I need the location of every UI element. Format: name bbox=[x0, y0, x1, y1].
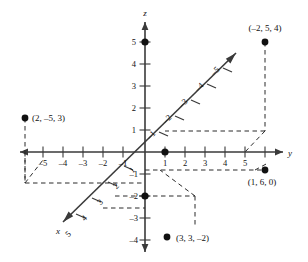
axes-3d-plot: y z x –5 –4 –3 –2 –1 1 2 3 4 5 5 4 3 2 1… bbox=[0, 0, 308, 262]
point-neg2-5-4[interactable] bbox=[262, 39, 269, 46]
y-tick--4: –4 bbox=[58, 158, 68, 168]
y-tick-5: 5 bbox=[243, 158, 247, 168]
z-tick-3: 3 bbox=[132, 81, 136, 91]
z-tick--3: –3 bbox=[129, 213, 139, 223]
coordinate-figure: y z x –5 –4 –3 –2 –1 1 2 3 4 5 5 4 3 2 1… bbox=[0, 0, 308, 262]
x-axis-label: x bbox=[55, 226, 60, 236]
y-tick--2: –2 bbox=[98, 158, 108, 168]
point-label-1-6-0: (1, 6, 0) bbox=[248, 177, 277, 187]
point-label-2-neg5-3: (2, –5, 3) bbox=[32, 113, 65, 123]
point-label-3-3-neg2: (3, 3, –2) bbox=[176, 233, 209, 243]
y-tick--3: –3 bbox=[78, 158, 88, 168]
y-tick-3: 3 bbox=[203, 158, 207, 168]
point-on-z-axis[interactable] bbox=[141, 38, 148, 45]
z-tick-1: 1 bbox=[132, 125, 136, 135]
y-tick--1: –1 bbox=[118, 158, 128, 168]
z-tick-5: 5 bbox=[132, 37, 136, 47]
figure-caption bbox=[4, 246, 154, 260]
point-1-6-0[interactable] bbox=[262, 167, 269, 174]
z-axis-label: z bbox=[142, 8, 147, 18]
z-tick--2: –2 bbox=[129, 191, 139, 201]
z-tick--4: –4 bbox=[129, 235, 139, 245]
y-tick-1: 1 bbox=[163, 158, 167, 168]
point-label-neg2-5-4: (–2, 5, 4) bbox=[249, 23, 282, 33]
y-axis-label: y bbox=[287, 148, 292, 158]
z-tick-2: 2 bbox=[132, 103, 136, 113]
point-2-neg5-3[interactable] bbox=[22, 115, 29, 122]
point-on-z-axis-negative[interactable] bbox=[141, 192, 148, 199]
y-tick--5: –5 bbox=[38, 158, 48, 168]
y-tick-2: 2 bbox=[183, 158, 187, 168]
point-3-3-neg2[interactable] bbox=[164, 234, 171, 241]
point-on-y-axis[interactable] bbox=[161, 148, 168, 155]
